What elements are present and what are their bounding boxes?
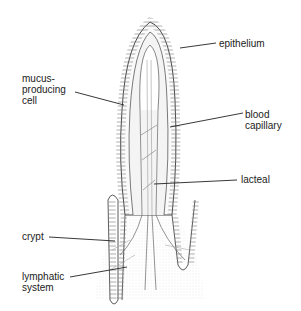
leader-mucus xyxy=(75,92,124,105)
leader-crypt xyxy=(49,237,115,241)
leader-blood-capillary xyxy=(170,113,243,127)
label-blood-capillary: blood capillary xyxy=(245,109,282,131)
label-lacteal: lacteal xyxy=(241,174,270,185)
villus-diagram: epithelium mucus- producing cell blood c… xyxy=(0,0,301,311)
leader-epithelium xyxy=(180,43,216,48)
label-epithelium: epithelium xyxy=(219,38,265,49)
label-mucus-producing-cell: mucus- producing cell xyxy=(22,73,66,106)
label-crypt: crypt xyxy=(22,231,44,242)
label-lymphatic-system: lymphatic system xyxy=(22,271,64,293)
